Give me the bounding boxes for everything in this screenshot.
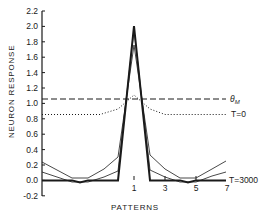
x-tick-label: 3 [163,183,168,193]
t0-label: T=0 [231,109,246,119]
y-tick-label: 0.6 [26,129,38,139]
y-tick-label: 1.6 [26,52,38,62]
t3000-label: T=3000 [229,175,258,185]
t0-line [42,95,226,115]
y-axis-label: NEURON RESPONSE [7,45,16,138]
y-tick-label: 2.2 [26,6,38,16]
y-tick-label: 0.2 [26,160,38,170]
x-axis-label: PATTERNS [111,203,159,212]
intermediate-curve-2 [42,30,226,182]
y-tick-label: 0.8 [26,114,38,124]
y-tick-labels: 2.2 2.0 1.8 1.6 1.4 1.2 1.0 0.8 0.6 0.4 … [23,6,38,201]
x-tick-label: 1 [132,183,137,193]
intermediate-curve-1 [42,45,226,178]
y-tick-label: 2.0 [26,21,38,31]
x-tick-label: 5 [194,183,199,193]
x-tick-labels: 1 3 5 7 [132,183,230,193]
t3000-line [42,26,226,183]
y-tick-label: 1.4 [26,68,38,78]
y-tick-label: 0.4 [26,145,38,155]
y-tick-label: 1.2 [26,83,38,93]
y-tick-label: 1.8 [26,37,38,47]
y-tick-label: 1.0 [26,98,38,108]
y-tick-label: 0.0 [26,175,38,185]
y-tick-label: -0.2 [23,191,38,201]
chart: 2.2 2.0 1.8 1.6 1.4 1.2 1.0 0.8 0.6 0.4 … [0,0,271,217]
theta-m-label: θM [230,94,240,105]
